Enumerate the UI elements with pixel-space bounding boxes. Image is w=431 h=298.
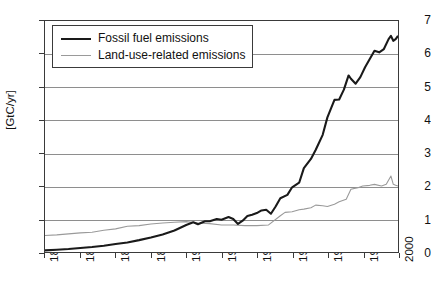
emissions-line-chart: [GtC/yr] 01234567 1850186518801895191019… [0,0,431,298]
x-tick-mark [186,253,187,258]
x-tick-label: 2000 [404,236,416,262]
legend-swatch-land-use-icon [61,55,91,56]
legend-item-fossil: Fossil fuel emissions [61,30,252,47]
x-tick-mark [399,253,400,258]
y-tick-label: 2 [395,180,431,192]
x-tick-mark [115,253,116,258]
fossil-fuel-line [45,36,398,251]
legend: Fossil fuel emissions Land-use-related e… [52,25,253,68]
y-tick-label: 3 [395,147,431,159]
y-tick-label: 5 [395,81,431,93]
legend-item-land-use: Land-use-related emissions [61,47,252,64]
y-tick-label: 7 [395,14,431,26]
legend-label-fossil: Fossil fuel emissions [98,32,209,45]
x-tick-mark [44,253,45,258]
x-tick-mark [151,253,152,258]
x-tick-mark [257,253,258,258]
y-tick-label: 4 [395,114,431,126]
x-tick-mark [328,253,329,258]
x-tick-mark [293,253,294,258]
x-tick-mark [364,253,365,258]
y-axis-label: [GtC/yr] [4,74,16,146]
x-tick-mark [222,253,223,258]
legend-label-land-use: Land-use-related emissions [98,49,245,62]
y-tick-label: 1 [395,214,431,226]
land-use-line [45,176,398,235]
y-tick-label: 6 [395,47,431,59]
x-tick-mark [80,253,81,258]
legend-swatch-fossil-icon [61,38,91,40]
